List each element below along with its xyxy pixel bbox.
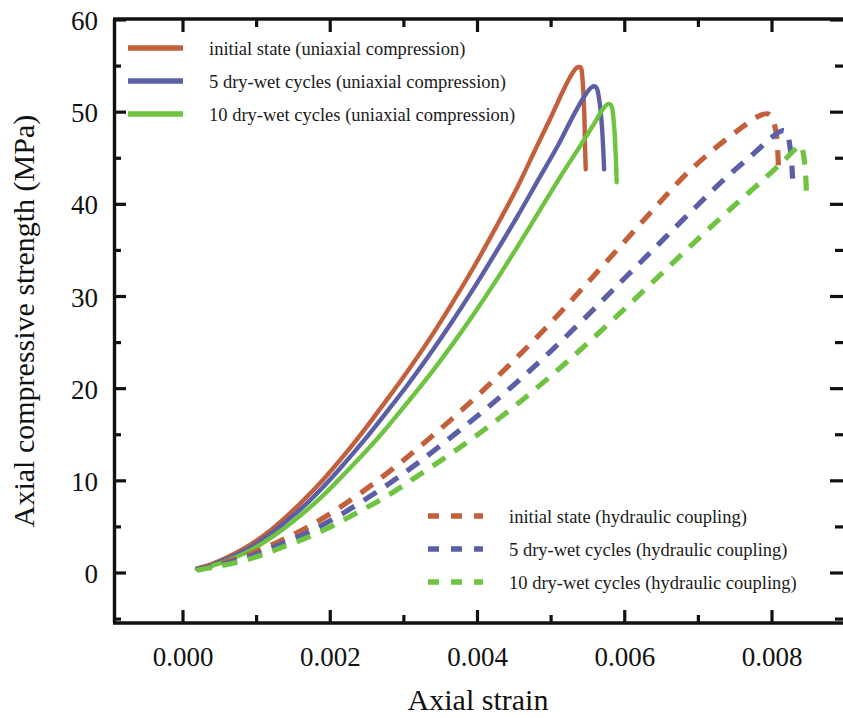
y-axis-title: Axial compressive strength (MPa)	[7, 115, 41, 527]
y-tick-label: 50	[71, 98, 98, 128]
legend-label: initial state (hydraulic coupling)	[509, 507, 747, 528]
curve-initial-state-hydraulic-coupling	[197, 114, 779, 570]
y-tick-label: 30	[71, 283, 98, 313]
axial-stress-strain-chart: 0.0000.0020.0040.0060.008 0102030405060 …	[0, 0, 843, 718]
legend-label: 10 dry-wet cycles (uniaxial compression)	[209, 105, 515, 126]
legend-hydraulic-coupling: initial state (hydraulic coupling)5 dry-…	[428, 507, 797, 594]
x-axis-title: Axial strain	[408, 683, 549, 716]
data-curves	[197, 67, 807, 570]
curve-10-dry-wet-cycles-uniaxial-compression	[197, 104, 617, 569]
x-tick-label: 0.008	[742, 642, 803, 672]
x-tick-label: 0.000	[153, 642, 214, 672]
legend-uniaxial-compression: initial state (uniaxial compression)5 dr…	[128, 39, 515, 126]
legend-label: 5 dry-wet cycles (uniaxial compression)	[209, 72, 506, 93]
x-tick-label: 0.002	[300, 642, 361, 672]
legend-label: initial state (uniaxial compression)	[209, 39, 465, 60]
y-tick-label: 60	[71, 6, 98, 36]
y-tick-labels: 0102030405060	[71, 6, 98, 589]
x-tick-labels: 0.0000.0020.0040.0060.008	[153, 642, 803, 672]
legend-label: 5 dry-wet cycles (hydraulic coupling)	[509, 540, 787, 561]
chart-figure: 0.0000.0020.0040.0060.008 0102030405060 …	[0, 0, 843, 718]
y-tick-label: 20	[71, 375, 98, 405]
y-tick-label: 10	[71, 467, 98, 497]
legend-label: 10 dry-wet cycles (hydraulic coupling)	[509, 573, 797, 594]
x-tick-label: 0.004	[447, 642, 508, 672]
y-tick-label: 0	[85, 559, 99, 589]
curve-5-dry-wet-cycles-hydraulic-coupling	[197, 131, 793, 570]
y-tick-label: 40	[71, 190, 98, 220]
x-tick-label: 0.006	[594, 642, 655, 672]
